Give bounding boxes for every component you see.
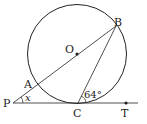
label-o: O <box>65 43 74 56</box>
label-p: P <box>3 97 11 110</box>
label-t: T <box>121 107 129 120</box>
label-c: C <box>73 107 81 120</box>
label-angle-64: 64° <box>84 89 102 100</box>
angle-arc-x <box>21 97 23 103</box>
label-angle-x: x <box>25 92 31 103</box>
label-a: A <box>23 78 33 91</box>
label-b: B <box>114 16 122 29</box>
geometry-diagram: O B A P C T x 64° <box>0 0 147 124</box>
center-point-o <box>75 52 78 55</box>
point-t <box>124 101 127 104</box>
